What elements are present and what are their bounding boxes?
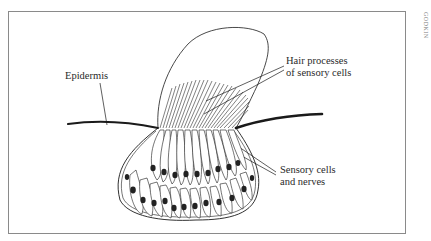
sensory-organ-illustration <box>0 0 431 241</box>
label-sensory-cells-line2: and nerves <box>280 176 325 188</box>
sensory-cells <box>130 130 253 218</box>
illustrator-credit: GODKIN <box>409 12 429 52</box>
hair-processes <box>160 80 249 128</box>
label-epidermis: Epidermis <box>65 70 108 82</box>
label-hair-processes-line1: Hair processes <box>286 55 348 67</box>
label-sensory-cells-line1: Sensory cells <box>280 164 336 176</box>
cupula-outline <box>158 27 269 128</box>
label-hair-processes-line2: of sensory cells <box>286 67 351 79</box>
